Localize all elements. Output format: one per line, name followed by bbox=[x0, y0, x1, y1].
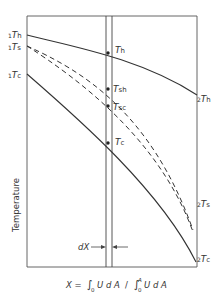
svg-text:A: A bbox=[137, 277, 142, 283]
y-axis-label: Temperature bbox=[11, 178, 21, 233]
svg-text:U d A: U d A bbox=[144, 280, 167, 290]
right-label-Th: 2Th bbox=[197, 94, 211, 104]
surface-hot-curve bbox=[27, 46, 193, 230]
mid-label-Tsc: Tsc bbox=[113, 102, 126, 112]
svg-text:0: 0 bbox=[138, 287, 142, 293]
left-label-Th: 1Th bbox=[8, 30, 22, 40]
svg-text:X =: X = bbox=[65, 280, 82, 290]
dx-annotation: dX bbox=[78, 242, 128, 252]
mid-label-Tsh: Tsh bbox=[113, 84, 127, 94]
point-Tc bbox=[106, 141, 109, 144]
right-label-Ts: 2Ts bbox=[197, 199, 210, 209]
svg-text:/: / bbox=[125, 280, 128, 290]
left-label-Tc: 1Tc bbox=[8, 70, 21, 80]
cold-fluid-curve bbox=[27, 74, 196, 262]
svg-text:U d A: U d A bbox=[97, 280, 120, 290]
surface-cold-curve bbox=[27, 46, 193, 232]
point-Tsc bbox=[106, 104, 109, 107]
mid-label-Th: Th bbox=[115, 45, 125, 55]
mid-label-Tc: Tc bbox=[115, 137, 125, 147]
point-Th bbox=[106, 51, 109, 54]
x-axis-formula: X = ∫ 0 U d A / ∫ 0 A U d A bbox=[65, 277, 167, 293]
dx-label: dX bbox=[78, 242, 89, 252]
right-label-Tc: 2Tc bbox=[197, 254, 210, 264]
point-Tsh bbox=[106, 87, 109, 90]
left-label-Ts: 1Ts bbox=[8, 42, 21, 52]
svg-text:0: 0 bbox=[91, 287, 95, 293]
temperature-profile-diagram: 1Th 1Ts 1Tc Th Tsh Tsc Tc 2Th 2Ts 2Tc Te… bbox=[0, 0, 223, 304]
